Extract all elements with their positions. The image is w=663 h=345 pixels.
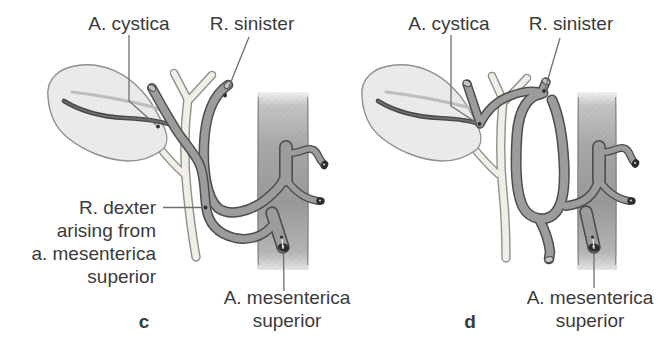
a-cystica-leader-dot	[478, 122, 482, 126]
panel-d: A. cystica R. sinister A. mesenterica su…	[362, 13, 654, 332]
a-cystica-leader-dot	[156, 125, 160, 129]
figure-canvas: A. cystica R. sinister R. dexter arising…	[0, 0, 663, 345]
r-sinister-leader	[545, 38, 560, 89]
branch2-cut-highlight	[319, 199, 321, 201]
branch1-cut-highlight	[323, 163, 325, 165]
leader-lines-d	[451, 35, 594, 288]
cystic-artery-variants-diagram: A. cystica R. sinister R. dexter arising…	[0, 0, 663, 345]
a-mesenterica-leader-dot	[280, 235, 283, 238]
label-a-cystica: A. cystica	[88, 13, 170, 34]
label-r-dexter-line4: superior	[87, 266, 156, 287]
gallbladder	[362, 65, 481, 161]
panel-letter-d: d	[464, 311, 476, 332]
a-mesenterica-leader-dot	[591, 235, 594, 238]
a-mesenterica-leader	[284, 252, 285, 291]
branch2-cut-highlight	[630, 199, 632, 201]
label-r-dexter-line2: arising from	[57, 220, 156, 241]
label-a-mesenterica-line1: A. mesenterica	[527, 287, 654, 308]
label-r-dexter-line3: a. mesenterica	[31, 243, 156, 264]
label-a-cystica: A. cystica	[408, 13, 490, 34]
r-sinister-leader	[226, 37, 249, 94]
label-a-mesenterica-line1: A. mesenterica	[224, 287, 351, 308]
panel-c: A. cystica R. sinister R. dexter arising…	[31, 13, 350, 332]
label-r-sinister: R. sinister	[210, 13, 295, 34]
gallbladder	[48, 65, 167, 161]
descending-vessel	[539, 219, 550, 259]
r-sinister-leader-dot	[223, 94, 227, 98]
label-r-sinister: R. sinister	[529, 13, 614, 34]
r-dexter-leader-dot	[204, 206, 208, 210]
label-a-mesenterica-line2: superior	[556, 310, 625, 331]
panel-letter-c: c	[139, 311, 150, 332]
r-sinister-leader-dot	[542, 89, 546, 93]
label-r-dexter-line1: R. dexter	[79, 197, 157, 218]
branch1-cut-highlight	[634, 162, 636, 164]
label-a-mesenterica-line2: superior	[253, 310, 322, 331]
